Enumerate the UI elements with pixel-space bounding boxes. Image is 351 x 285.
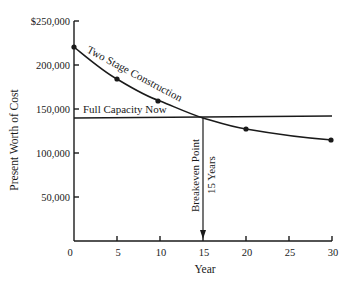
x-tick-label: 25 (285, 247, 296, 258)
data-point-20 (243, 126, 248, 131)
y-tick-label: 150,000 (36, 104, 70, 115)
x-tick-label: 5 (115, 247, 120, 258)
y-tick-label: 100,000 (36, 148, 70, 159)
data-point-0 (71, 44, 76, 49)
x-axis-title: Year (194, 263, 215, 275)
x-tick-label: 15 (199, 247, 210, 258)
x-tick-label: 30 (328, 247, 339, 258)
x-tick-label: 0 (67, 247, 72, 258)
y-tick-label: 50,000 (41, 192, 70, 203)
two-stage-label: Two Stage Construction (85, 43, 185, 104)
x-tick-label: 10 (156, 247, 167, 258)
full-capacity-label: Full Capacity Now (83, 103, 167, 115)
breakeven-years-label: 15 Years (205, 156, 217, 194)
breakeven-label: Breakeven Point (189, 139, 201, 212)
data-point-10 (155, 98, 160, 103)
y-axis-title: Present Worth of Cost (8, 88, 20, 190)
y-tick-label: $250,000 (31, 16, 70, 27)
x-tick-labels: 0 5 10 15 20 25 30 (67, 247, 338, 258)
breakeven-chart: $250,000 200,000 150,000 100,000 50,000 … (0, 0, 351, 285)
data-point-30 (328, 137, 333, 142)
y-tick-label: 200,000 (36, 60, 70, 71)
x-tick-label: 20 (242, 247, 253, 258)
arrow-down-icon (200, 230, 206, 239)
data-point-5 (114, 76, 119, 81)
y-tick-labels: $250,000 200,000 150,000 100,000 50,000 (31, 16, 70, 203)
